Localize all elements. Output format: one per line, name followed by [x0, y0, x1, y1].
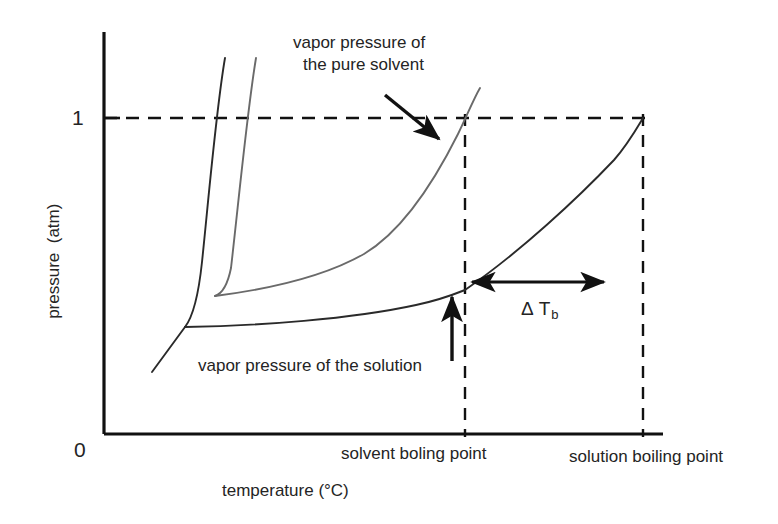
delta-tb-annotation: ΔTb [521, 296, 559, 323]
solvent-fusion-curve [185, 58, 225, 327]
delta-tb-main: T [539, 298, 551, 319]
y-axis-title: pressure (atm) [43, 171, 65, 351]
solvent-curve-annotation: vapor pressure ofthe pure solvent [293, 32, 425, 77]
x-axis-title: temperature (°C) [222, 480, 349, 502]
solution-fusion-curve [215, 58, 256, 296]
solution-boiling-point-label: solution boiling point [569, 446, 723, 468]
delta-symbol: Δ [521, 298, 534, 319]
reference-lines [104, 114, 652, 437]
phase-diagram-figure: 1 0 pressure (atm) temperature (°C) solv… [0, 0, 778, 524]
solvent-boiling-point-label: solvent boling point [341, 443, 487, 465]
solvent-curve-annotation-line1: vapor pressure of [293, 33, 425, 52]
solution-curve-annotation: vapor pressure of the solution [198, 355, 422, 377]
solution-vapor-pressure-curve [185, 118, 643, 327]
sublimation-curve [152, 327, 185, 372]
annotation-arrows [385, 95, 604, 361]
y-axis-tick-zero: 0 [74, 436, 86, 464]
solvent-curve-annotation-line2: the pure solvent [303, 54, 425, 76]
y-axis-tick-one: 1 [72, 104, 84, 132]
delta-tb-subscript: b [551, 307, 558, 322]
